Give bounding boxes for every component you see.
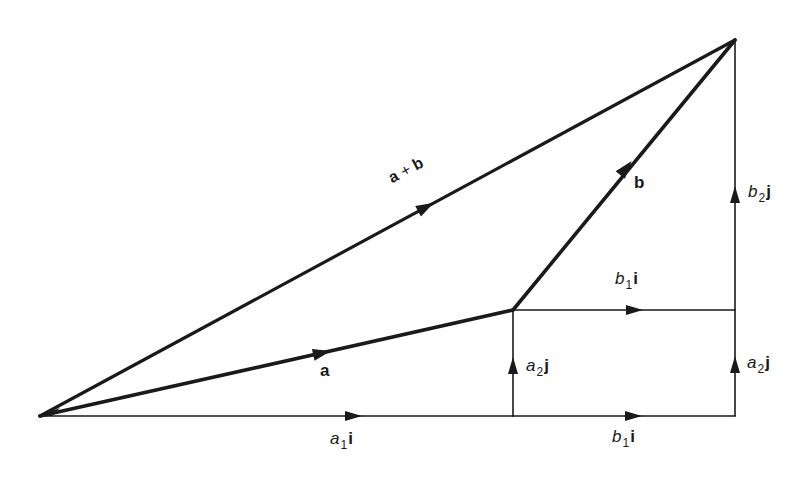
- label-a2j-right: a2j: [747, 354, 770, 371]
- label-b1i-middle-base: b: [615, 269, 624, 288]
- label-a2j-left: a2j: [526, 357, 549, 374]
- label-b2j: b2j: [748, 183, 771, 200]
- label-a: a: [320, 362, 329, 379]
- diagram-canvas: [0, 0, 812, 480]
- label-a1i-sub: 1: [340, 438, 347, 452]
- vector-a-line: [40, 310, 513, 416]
- label-a2j-left-unit: j: [544, 356, 549, 375]
- b1i-middle-arrow-icon: [626, 305, 643, 315]
- vector-a-plus-b-line: [40, 40, 735, 416]
- a1i-arrow-icon: [345, 411, 362, 421]
- label-b2j-base: b: [748, 182, 757, 201]
- label-a2j-right-sub: 2: [757, 362, 764, 376]
- label-a1i-unit: i: [348, 429, 353, 448]
- label-b1i-bottom-unit: i: [630, 427, 635, 446]
- vector-a-plus-b-arrow-icon: [415, 197, 437, 216]
- a2j-left-arrow-icon: [508, 357, 518, 374]
- label-a2j-right-base: a: [747, 353, 756, 372]
- label-b1i-middle-unit: i: [633, 269, 638, 288]
- label-b: b: [634, 174, 644, 191]
- label-b1i-bottom: b1i: [612, 428, 635, 445]
- label-a2j-left-base: a: [526, 356, 535, 375]
- label-b1i-middle-sub: 1: [625, 278, 632, 292]
- b1i-bottom-arrow-icon: [625, 411, 642, 421]
- label-a1i: a1i: [330, 430, 353, 447]
- vector-addition-diagram: a + b a b a1i b1i b1i a2j a2j b2j: [0, 0, 812, 480]
- label-b2j-sub: 2: [758, 191, 765, 205]
- label-b2j-unit: j: [766, 182, 771, 201]
- label-b1i-bottom-sub: 1: [622, 436, 629, 450]
- label-a1i-base: a: [330, 429, 339, 448]
- label-b1i-bottom-base: b: [612, 427, 621, 446]
- label-a2j-right-unit: j: [765, 353, 770, 372]
- label-a2j-left-sub: 2: [536, 365, 543, 379]
- label-b1i-middle: b1i: [615, 270, 638, 287]
- b2j-arrow-icon: [730, 186, 740, 203]
- a2j-right-arrow-icon: [730, 356, 740, 373]
